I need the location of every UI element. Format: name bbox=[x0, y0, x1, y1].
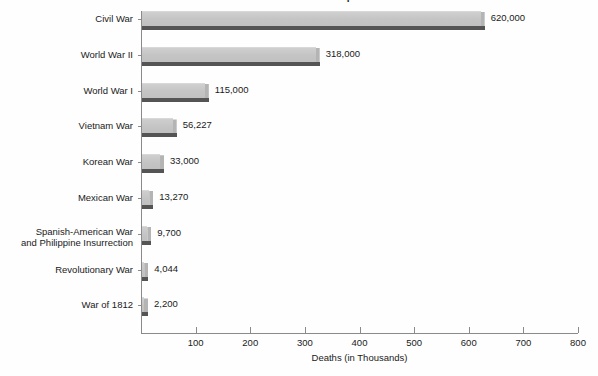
bar-face bbox=[142, 190, 149, 205]
x-axis-tick bbox=[414, 327, 415, 333]
bar-row: World War I115,000 bbox=[0, 83, 598, 119]
bar-end-cap bbox=[205, 84, 209, 99]
bar-row: War of 18122,200 bbox=[0, 297, 598, 333]
bar-value-label: 620,000 bbox=[491, 12, 525, 23]
category-label: Revolutionary War bbox=[0, 264, 133, 275]
bar-value-label: 4,044 bbox=[154, 263, 178, 274]
bar-shadow bbox=[142, 241, 147, 245]
bar bbox=[142, 11, 481, 30]
bar-shadow bbox=[142, 133, 173, 137]
category-label-line: Korean War bbox=[0, 156, 133, 167]
x-axis-tick bbox=[360, 327, 361, 333]
bar-end-cap bbox=[316, 48, 320, 63]
chart-title: Total U.S. War Deaths Comparison bbox=[0, 0, 598, 2]
bar-value-label: 9,700 bbox=[157, 227, 181, 238]
x-axis-tick-label: 500 bbox=[394, 337, 434, 348]
bar-shadow bbox=[142, 62, 316, 66]
category-label: Civil War bbox=[0, 13, 133, 24]
category-label-line: Spanish-American War bbox=[0, 226, 133, 237]
bar-row: Revolutionary War4,044 bbox=[0, 262, 598, 298]
category-label-line: Civil War bbox=[0, 13, 133, 24]
x-axis-title: Deaths (in Thousands) bbox=[141, 352, 578, 363]
bar-shadow bbox=[142, 169, 160, 173]
x-axis-tick bbox=[305, 327, 306, 333]
bar bbox=[142, 47, 316, 66]
x-axis-tick-label: 200 bbox=[230, 337, 270, 348]
bar-face bbox=[142, 118, 173, 133]
x-axis-tick-label: 700 bbox=[503, 337, 543, 348]
bar-row: Mexican War13,270 bbox=[0, 190, 598, 226]
bar-end-cap bbox=[144, 263, 148, 278]
bar-end-cap bbox=[173, 119, 177, 134]
bar-value-label: 318,000 bbox=[326, 48, 360, 59]
bar-face bbox=[142, 83, 205, 98]
bar-value-label: 115,000 bbox=[215, 84, 249, 95]
x-axis-tick bbox=[250, 327, 251, 333]
bar-shadow bbox=[142, 277, 144, 281]
bar-value-label: 2,200 bbox=[154, 298, 178, 309]
category-label: War of 1812 bbox=[0, 299, 133, 310]
category-label-line: and Philippine Insurrection bbox=[0, 237, 133, 248]
category-label-line: World War II bbox=[0, 49, 133, 60]
bar-end-cap bbox=[481, 12, 485, 27]
bar-face bbox=[142, 262, 144, 277]
x-axis-tick bbox=[523, 327, 524, 333]
bar-end-cap bbox=[147, 227, 151, 242]
bar-shadow bbox=[142, 98, 205, 102]
bar-chart: Total U.S. War Deaths Comparison Civil W… bbox=[0, 0, 598, 376]
bar-value-label: 33,000 bbox=[170, 155, 199, 166]
x-axis-tick-label: 400 bbox=[340, 337, 380, 348]
bar bbox=[142, 226, 147, 245]
category-label: Korean War bbox=[0, 156, 133, 167]
x-axis-tick bbox=[469, 327, 470, 333]
category-label-line: War of 1812 bbox=[0, 299, 133, 310]
category-label-line: Vietnam War bbox=[0, 120, 133, 131]
bar-shadow bbox=[142, 26, 481, 30]
x-axis-tick-label: 600 bbox=[449, 337, 489, 348]
x-axis-tick bbox=[196, 327, 197, 333]
category-label: World War I bbox=[0, 85, 133, 96]
bar-row: World War II318,000 bbox=[0, 47, 598, 83]
bar-end-cap bbox=[144, 298, 148, 313]
bar bbox=[142, 154, 160, 173]
bar-row: Korean War33,000 bbox=[0, 154, 598, 190]
bar bbox=[142, 262, 144, 281]
x-axis-tick bbox=[578, 327, 579, 333]
bar-end-cap bbox=[149, 191, 153, 206]
category-label-line: Mexican War bbox=[0, 192, 133, 203]
bar-face bbox=[142, 226, 147, 241]
bar-face bbox=[142, 47, 316, 62]
bar bbox=[142, 190, 149, 209]
bar-value-label: 13,270 bbox=[159, 191, 188, 202]
bar bbox=[142, 297, 144, 316]
bar-value-label: 56,227 bbox=[183, 119, 212, 130]
bar-row: Vietnam War56,227 bbox=[0, 118, 598, 154]
category-label: Spanish-American Warand Philippine Insur… bbox=[0, 226, 133, 248]
bar-end-cap bbox=[160, 155, 164, 170]
bar bbox=[142, 83, 205, 102]
bar bbox=[142, 118, 173, 137]
bar-face bbox=[142, 11, 481, 26]
category-label: Vietnam War bbox=[0, 120, 133, 131]
bar-row: Spanish-American Warand Philippine Insur… bbox=[0, 226, 598, 262]
category-label: Mexican War bbox=[0, 192, 133, 203]
bar-shadow bbox=[142, 312, 144, 316]
x-axis-tick-label: 100 bbox=[176, 337, 216, 348]
bar-row: Civil War620,000 bbox=[0, 11, 598, 47]
category-label-line: Revolutionary War bbox=[0, 264, 133, 275]
x-axis-tick-label: 800 bbox=[558, 337, 598, 348]
category-label: World War II bbox=[0, 49, 133, 60]
bar-shadow bbox=[142, 205, 149, 209]
bar-face bbox=[142, 154, 160, 169]
x-axis-tick-label: 300 bbox=[285, 337, 325, 348]
bar-face bbox=[142, 297, 144, 312]
category-label-line: World War I bbox=[0, 85, 133, 96]
